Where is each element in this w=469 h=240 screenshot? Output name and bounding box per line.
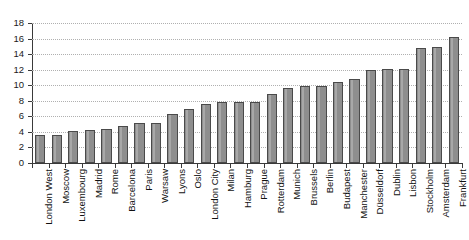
y-tick-label-6: 6 [0, 111, 30, 121]
bar [68, 131, 78, 163]
bar [52, 135, 62, 163]
bar [85, 130, 95, 163]
x-axis-label: London City [210, 169, 220, 220]
y-tick-label-4: 4 [0, 127, 30, 137]
x-tick-mark [65, 163, 66, 168]
x-tick-mark [462, 163, 463, 168]
x-axis-label: Madrid [94, 169, 104, 198]
y-tick-label-2: 2 [0, 142, 30, 152]
y-tick-label-18: 18 [0, 18, 30, 28]
y-tick-label-10: 10 [0, 80, 30, 90]
x-tick-mark [330, 163, 331, 168]
y-tick-label-16: 16 [0, 34, 30, 44]
x-tick-mark [82, 163, 83, 168]
bars-layer [32, 23, 462, 163]
x-tick-mark [49, 163, 50, 168]
x-axis-label: London West [44, 169, 54, 225]
x-tick-mark [115, 163, 116, 168]
x-tick-mark [230, 163, 231, 168]
x-axis-label: Warsaw [160, 169, 170, 203]
x-tick-mark [346, 163, 347, 168]
x-axis-label: Berlin [325, 169, 335, 193]
bar [101, 129, 111, 163]
x-tick-mark [214, 163, 215, 168]
bar [432, 47, 442, 163]
x-tick-mark [164, 163, 165, 168]
bar [118, 126, 128, 163]
x-axis-label: Lyons [177, 169, 187, 194]
x-axis-label: Hamburg [243, 169, 253, 208]
x-axis-label: Amsterdam [441, 169, 451, 218]
x-tick-mark [181, 163, 182, 168]
x-tick-mark [379, 163, 380, 168]
bar [201, 104, 211, 163]
x-axis-label: Oslo [193, 169, 203, 189]
bar [366, 70, 376, 163]
x-tick-mark [396, 163, 397, 168]
x-tick-mark [412, 163, 413, 168]
bar [134, 123, 144, 163]
bar [316, 86, 326, 163]
bar [167, 114, 177, 163]
x-axis-label: Prague [259, 169, 269, 200]
x-axis-label: Brussels [309, 169, 319, 205]
bar [234, 102, 244, 163]
x-axis-label: Rome [110, 169, 120, 194]
y-tick-label-8: 8 [0, 96, 30, 106]
x-axis-label: Manchester [359, 169, 369, 219]
bar [151, 123, 161, 163]
x-tick-mark [363, 163, 364, 168]
bar [267, 94, 277, 163]
bar [217, 102, 227, 163]
bar [184, 109, 194, 163]
x-axis-label: Budapest [342, 169, 352, 209]
x-axis-label: Frankfurt [458, 169, 468, 207]
x-axis-label: Paris [144, 169, 154, 191]
bar-chart: London WestMoscowLuxembourgMadridRomeBar… [0, 0, 469, 240]
x-tick-mark [32, 163, 33, 168]
bar [250, 102, 260, 163]
x-axis-label: Munich [292, 169, 302, 200]
bar [382, 69, 392, 163]
bar [283, 88, 293, 163]
bar [300, 86, 310, 163]
x-tick-mark [280, 163, 281, 168]
x-tick-mark [131, 163, 132, 168]
x-tick-mark [247, 163, 248, 168]
y-tick-label-14: 14 [0, 49, 30, 59]
bar [349, 79, 359, 163]
bar [449, 37, 459, 163]
x-axis-label: Dublin [392, 169, 402, 196]
x-tick-mark [197, 163, 198, 168]
x-axis-label: Stockholm [425, 169, 435, 213]
bar [416, 48, 426, 163]
x-axis-label: Moscow [61, 169, 71, 204]
bar [333, 82, 343, 163]
x-axis-label: Milan [226, 169, 236, 192]
x-axis-label: Düsseldorf [375, 169, 385, 214]
bar [35, 135, 45, 163]
x-axis-labels: London WestMoscowLuxembourgMadridRomeBar… [32, 169, 462, 240]
bar [399, 69, 409, 163]
x-axis-label: Luxembourg [77, 169, 87, 222]
x-tick-mark [445, 163, 446, 168]
x-tick-mark [98, 163, 99, 168]
x-tick-mark [297, 163, 298, 168]
y-tick-label-12: 12 [0, 65, 30, 75]
x-axis-label: Barcelona [127, 169, 137, 212]
x-tick-mark [313, 163, 314, 168]
x-tick-mark [148, 163, 149, 168]
y-tick-label-0: 0 [0, 158, 30, 168]
x-tick-mark [264, 163, 265, 168]
x-axis-label: Lisbon [408, 169, 418, 197]
x-axis-ticks [32, 163, 462, 168]
x-axis-label: Rotterdam [276, 169, 286, 213]
x-tick-mark [429, 163, 430, 168]
